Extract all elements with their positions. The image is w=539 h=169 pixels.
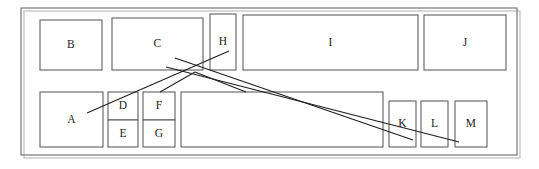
region-i[interactable]: I <box>243 15 418 70</box>
region-e-label: E <box>119 127 126 139</box>
connector-junction-down-left[interactable] <box>160 72 195 92</box>
region-a-label: A <box>67 113 76 125</box>
region-l-label: L <box>431 117 438 129</box>
region-g-label: G <box>155 127 164 139</box>
region-d-label: D <box>119 99 128 111</box>
region-h[interactable]: H <box>210 14 236 70</box>
region-j-label: J <box>463 36 468 48</box>
regions-group: BCHIJADEFGKLM <box>40 14 506 147</box>
region-a[interactable]: A <box>40 92 103 147</box>
diagram-canvas: BCHIJADEFGKLM <box>0 0 539 169</box>
region-d[interactable]: D <box>108 92 138 120</box>
connector-junction-down-right[interactable] <box>195 72 246 92</box>
region-f-label: F <box>156 99 163 111</box>
region-b-label: B <box>67 38 75 50</box>
region-b[interactable]: B <box>40 20 102 70</box>
region-j[interactable]: J <box>424 15 506 70</box>
layout-regions-diagram: BCHIJADEFGKLM <box>0 0 539 169</box>
region-i-label: I <box>328 36 332 48</box>
region-c-label: C <box>154 37 162 49</box>
region-h-label: H <box>219 35 228 47</box>
region-c[interactable]: C <box>112 18 203 70</box>
region-e[interactable]: E <box>108 120 138 147</box>
region-m[interactable]: M <box>455 101 487 147</box>
region-g[interactable]: G <box>143 120 175 147</box>
region-m-label: M <box>466 117 476 129</box>
region-f[interactable]: F <box>143 92 175 120</box>
region-l[interactable]: L <box>421 101 448 147</box>
